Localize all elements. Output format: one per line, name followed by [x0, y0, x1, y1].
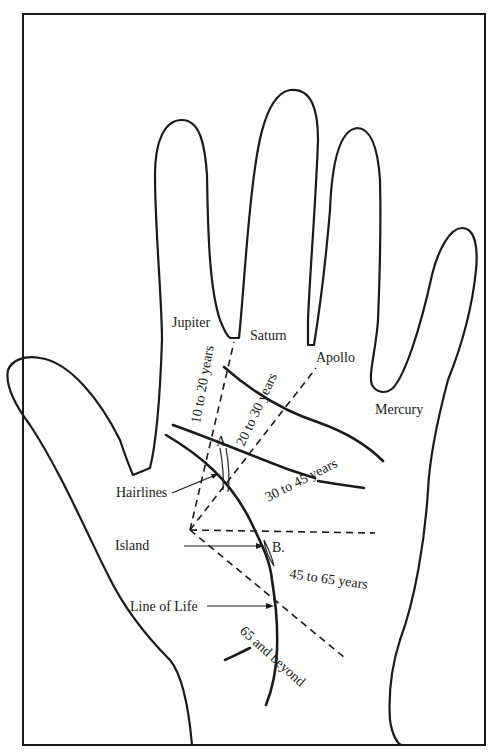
- hand-figure: Jupiter Saturn Apollo Mercury 10 to 20 y…: [0, 0, 497, 756]
- marker-a: A.: [216, 434, 230, 449]
- line-of-life-arrow: [207, 603, 274, 609]
- palmistry-diagram: Jupiter Saturn Apollo Mercury 10 to 20 y…: [0, 0, 497, 756]
- label-age-20-30: 20 to 30 years: [233, 370, 280, 448]
- label-age-45-65: 45 to 65 years: [289, 566, 369, 592]
- hairline-1: [220, 448, 223, 490]
- marker-b: B.: [272, 540, 285, 555]
- label-island: Island: [115, 538, 149, 553]
- label-jupiter: Jupiter: [172, 315, 210, 330]
- hairlines-arrow: [172, 474, 218, 493]
- age-dash-lower: [190, 530, 345, 658]
- life-line-final-segment: [225, 648, 250, 660]
- label-mercury: Mercury: [375, 402, 423, 417]
- age-dash-apollo: [190, 368, 316, 530]
- label-hairlines: Hairlines: [116, 485, 167, 500]
- head-line-end: [318, 481, 364, 488]
- life-line: [166, 435, 277, 705]
- island-arrow: [184, 543, 264, 549]
- label-age-10-20: 10 to 20 years: [188, 344, 216, 424]
- label-apollo: Apollo: [316, 350, 355, 365]
- hand-outline: [7, 90, 476, 745]
- label-line-of-life: Line of Life: [130, 599, 198, 614]
- label-saturn: Saturn: [250, 328, 287, 343]
- age-dash-horizontal: [190, 530, 375, 533]
